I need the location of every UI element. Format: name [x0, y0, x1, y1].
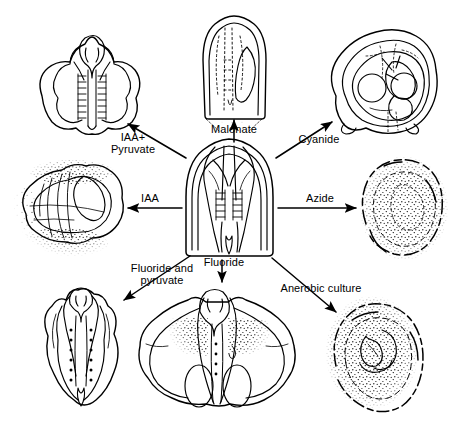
- diagram-artwork: [0, 0, 459, 434]
- figure-canvas: IAA+Pyruvate Malonate Cyanide IAA Azide …: [0, 0, 459, 434]
- label-malonate: Malonate: [196, 123, 272, 135]
- specimen-iaa-pyruvate: [40, 36, 140, 135]
- specimen-fluoride-pyruvate: [45, 288, 118, 406]
- label-fluoride: Fluoride: [192, 256, 256, 268]
- specimen-cyanide: [331, 30, 437, 134]
- label-iaa-pyruvate: IAA+Pyruvate: [96, 131, 170, 155]
- specimen-fluoride: [139, 290, 295, 408]
- specimen-malonate: [200, 16, 268, 132]
- specimen-iaa: [12, 160, 123, 260]
- specimen-control: [186, 139, 273, 256]
- label-iaa: IAA: [128, 192, 172, 204]
- specimen-azide: [360, 156, 448, 260]
- specimen-anerobic: [326, 296, 423, 412]
- label-cyanide: Cyanide: [288, 133, 350, 145]
- label-anerobic-culture: Anerobic culture: [272, 282, 370, 294]
- label-azide: Azide: [296, 192, 344, 204]
